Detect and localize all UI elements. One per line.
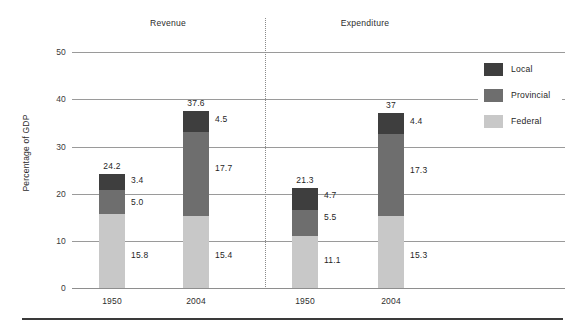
ytick-label-10: 10 xyxy=(40,236,66,246)
gridline-20 xyxy=(72,194,565,195)
bar-segment-provincial[interactable] xyxy=(99,190,125,214)
ytick-label-30: 30 xyxy=(40,142,66,152)
bar-expenditure-1950[interactable] xyxy=(292,188,318,288)
bar-segment-federal[interactable] xyxy=(183,216,209,288)
category-label-revenue-1950: 1950 xyxy=(82,296,142,306)
bar-segment-label-federal: 15.3 xyxy=(410,250,427,260)
bar-total-label: 21.3 xyxy=(282,175,328,185)
panel-title-expenditure: Expenditure xyxy=(305,18,425,28)
ytick-0: 0 xyxy=(40,283,66,294)
bar-revenue-1950[interactable] xyxy=(99,174,125,288)
bar-segment-label-local: 4.4 xyxy=(410,116,422,126)
bar-segment-label-federal: 15.8 xyxy=(131,250,148,260)
ytick-label-20: 20 xyxy=(40,189,66,199)
bar-expenditure-2004[interactable] xyxy=(378,113,404,288)
bar-segment-federal[interactable] xyxy=(378,216,404,288)
bar-segment-federal[interactable] xyxy=(99,214,125,288)
bar-segment-label-provincial: 17.3 xyxy=(410,165,427,175)
bar-segment-label-local: 3.4 xyxy=(131,175,143,185)
gridline-50 xyxy=(72,52,565,53)
ytick-40: 40 xyxy=(40,94,66,105)
bottom-rule xyxy=(22,318,563,320)
category-label-expenditure-2004: 2004 xyxy=(361,296,421,306)
category-label-revenue-2004: 2004 xyxy=(166,296,226,306)
legend-label-federal: Federal xyxy=(511,116,542,126)
ytick-label-50: 50 xyxy=(40,47,66,57)
bar-segment-label-federal: 15.4 xyxy=(215,250,232,260)
bar-segment-label-federal: 11.1 xyxy=(324,255,341,265)
bar-segment-label-local: 4.7 xyxy=(324,190,336,200)
bar-segment-local[interactable] xyxy=(99,174,125,190)
bar-segment-label-provincial: 5.0 xyxy=(131,197,143,207)
gridline-30 xyxy=(72,147,565,148)
bar-segment-provincial[interactable] xyxy=(292,210,318,236)
bar-segment-local[interactable] xyxy=(183,111,209,132)
bar-segment-label-provincial: 5.5 xyxy=(324,212,336,222)
bar-segment-local[interactable] xyxy=(378,113,404,134)
panel-divider xyxy=(265,18,266,289)
bar-segment-federal[interactable] xyxy=(292,236,318,288)
bar-segment-local[interactable] xyxy=(292,188,318,210)
bar-segment-provincial[interactable] xyxy=(183,132,209,216)
legend-label-provincial: Provincial xyxy=(511,90,550,100)
axis-baseline xyxy=(72,288,565,289)
ytick-label-0: 0 xyxy=(40,283,66,293)
ytick-label-40: 40 xyxy=(40,94,66,104)
gridline-10 xyxy=(72,241,565,242)
stacked-bar-chart-figure: 50 40 30 20 10 0 Percentage of GDP Reven… xyxy=(0,0,585,327)
legend-label-local: Local xyxy=(511,64,533,74)
plot-area: 50 40 30 20 10 0 Percentage of GDP Reven… xyxy=(0,0,585,300)
legend-swatch-provincial-icon xyxy=(484,89,503,102)
ytick-50: 50 xyxy=(40,47,66,58)
bar-total-label: 37.6 xyxy=(173,98,219,108)
ytick-20: 20 xyxy=(40,189,66,200)
bar-segment-provincial[interactable] xyxy=(378,134,404,216)
category-label-expenditure-1950: 1950 xyxy=(275,296,335,306)
bar-segment-label-local: 4.5 xyxy=(215,114,227,124)
legend-swatch-local-icon xyxy=(484,63,503,76)
panel-title-revenue: Revenue xyxy=(108,18,228,28)
ytick-10: 10 xyxy=(40,236,66,247)
bar-total-label: 24.2 xyxy=(89,161,135,171)
ytick-30: 30 xyxy=(40,142,66,153)
bar-total-label: 37 xyxy=(368,100,414,110)
legend-swatch-federal-icon xyxy=(484,115,503,128)
bar-segment-label-provincial: 17.7 xyxy=(215,163,232,173)
bar-revenue-2004[interactable] xyxy=(183,111,209,288)
y-axis-title: Percentage of GDP xyxy=(21,83,31,223)
